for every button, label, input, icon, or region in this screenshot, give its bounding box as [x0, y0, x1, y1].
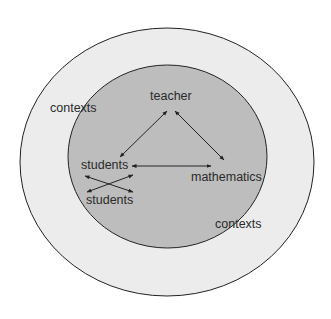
- students-node-top: students: [81, 159, 128, 172]
- inner-contexts-label: contexts: [215, 218, 262, 231]
- teacher-node: teacher: [150, 90, 192, 103]
- students-node-bottom: students: [86, 194, 133, 207]
- didactic-triangle-diagram: [0, 0, 331, 319]
- outer-contexts-label: contexts: [50, 102, 97, 115]
- mathematics-node: mathematics: [191, 171, 262, 184]
